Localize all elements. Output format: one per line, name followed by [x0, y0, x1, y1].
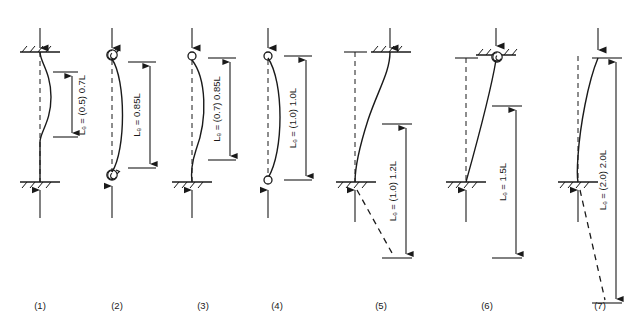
case-3-number: (3) [197, 300, 209, 311]
case-4-number: (4) [271, 300, 283, 311]
figure-background [0, 0, 635, 333]
case-5-dimension-label: Lₑ = (1.0) 1.2L [387, 161, 398, 221]
case-7-number: (7) [594, 300, 606, 311]
case-7-dimension-label: Lₑ = (2.0) 2.0L [597, 150, 608, 210]
case-5-number: (5) [375, 300, 387, 311]
case-2-dimension-label: Lₑ = 0.85L [131, 93, 142, 136]
case-6-dimension-label: Lₑ = 1.5L [497, 163, 508, 201]
case-6-number: (6) [481, 300, 493, 311]
case-4-bottom-support-pinned [264, 176, 272, 184]
case-3-top-support-pinned [188, 52, 196, 60]
column-effective-length-diagram: Lₑ = (0.5) 0.7L Lₑ = 0.85L [0, 0, 635, 333]
case-2-number: (2) [111, 300, 123, 311]
case-3-dimension-label: Lₑ = (0.7) 0.85L [211, 76, 222, 142]
case-1-number: (1) [34, 300, 46, 311]
case-1-dimension-label: Lₑ = (0.5) 0.7L [76, 75, 87, 135]
case-4-dimension-label: Lₑ = (1.0) 1.0L [287, 88, 298, 148]
